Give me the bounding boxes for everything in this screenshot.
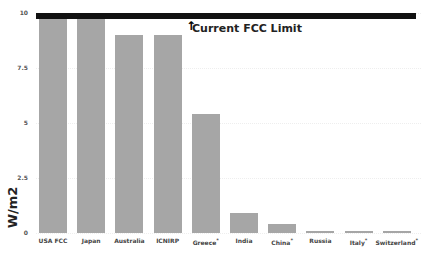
bar xyxy=(383,231,411,233)
y-axis-label: W/m2 xyxy=(5,187,20,229)
bar xyxy=(154,35,182,233)
bar xyxy=(306,231,334,233)
bar xyxy=(345,231,373,233)
bar xyxy=(115,35,143,233)
x-tick-label: Switzerland* xyxy=(372,237,422,246)
bar xyxy=(230,213,258,233)
y-tick-label: 0 xyxy=(2,229,28,236)
bar xyxy=(77,13,105,233)
bar xyxy=(192,114,220,233)
bar-chart: W/m2 02.557.510 USA FCCJapanAustraliaICN… xyxy=(0,0,429,257)
y-tick-label: 5 xyxy=(2,119,28,126)
y-tick-label: 7.5 xyxy=(2,64,28,71)
fcc-limit-annotation: Current FCC Limit xyxy=(192,22,302,35)
bar xyxy=(268,224,296,233)
bar xyxy=(39,13,67,233)
y-tick-label: 10 xyxy=(2,9,28,16)
fcc-limit-line xyxy=(36,13,416,19)
gridline xyxy=(36,233,421,234)
y-tick-label: 2.5 xyxy=(2,174,28,181)
